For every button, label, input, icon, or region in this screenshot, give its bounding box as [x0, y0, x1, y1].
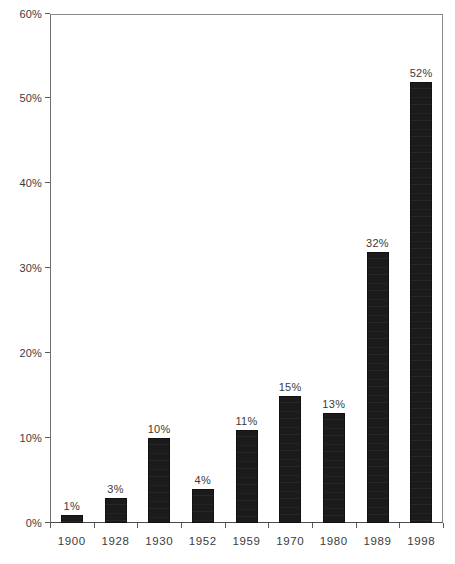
y-axis-tick-label: 20% — [19, 347, 42, 359]
bar-chart: 0% 10% 20% 30% 40% 50% 60% — [0, 0, 455, 564]
bar[interactable] — [367, 252, 389, 523]
y-axis-tick: 60% — [0, 8, 50, 20]
x-axis-label: 1998 — [397, 534, 445, 548]
bar-value-label: 32% — [356, 237, 400, 250]
x-axis-tick-mark — [356, 523, 357, 528]
bar[interactable] — [148, 438, 170, 523]
x-axis-label: 1952 — [179, 534, 227, 548]
bars-layer: 1% 3% 10% 4% 11% 15% 13% 32% 52% — [50, 14, 443, 523]
y-axis-tick: 40% — [0, 177, 50, 189]
x-axis-tick-mark — [50, 523, 51, 528]
x-axis-tick-mark — [181, 523, 182, 528]
x-axis-label: 1959 — [223, 534, 271, 548]
bar-value-label: 1% — [50, 500, 94, 513]
y-axis-tick-label: 10% — [19, 432, 42, 444]
x-axis-tick-mark — [225, 523, 226, 528]
x-axis-label: 1980 — [310, 534, 358, 548]
y-axis-tick: 0% — [0, 517, 50, 529]
y-axis: 0% 10% 20% 30% 40% 50% 60% — [0, 14, 50, 523]
bar[interactable] — [105, 498, 127, 523]
x-axis-label: 1930 — [135, 534, 183, 548]
x-axis-ticks — [50, 523, 443, 528]
bar-value-label: 52% — [399, 67, 443, 80]
x-axis-label: 1970 — [266, 534, 314, 548]
x-axis-tick-mark — [443, 523, 444, 528]
x-axis-tick-mark — [268, 523, 269, 528]
bar-value-label: 10% — [137, 423, 181, 436]
bar-value-label: 15% — [268, 381, 312, 394]
y-axis-tick-label: 0% — [26, 517, 42, 529]
x-axis: 1900 1928 1930 1952 1959 1970 1980 1989 … — [50, 534, 443, 554]
x-axis-label: 1928 — [92, 534, 140, 548]
y-axis-tick-label: 40% — [19, 177, 42, 189]
bar-value-label: 3% — [94, 483, 138, 496]
y-axis-tick-label: 60% — [19, 8, 42, 20]
bar[interactable] — [323, 413, 345, 523]
y-axis-tick: 50% — [0, 92, 50, 104]
bar-value-label: 13% — [312, 398, 356, 411]
y-axis-tick: 20% — [0, 347, 50, 359]
x-axis-tick-mark — [399, 523, 400, 528]
bar[interactable] — [61, 515, 83, 523]
bar[interactable] — [236, 430, 258, 523]
y-axis-tick-label: 30% — [19, 262, 42, 274]
bar-value-label: 4% — [181, 474, 225, 487]
bar[interactable] — [279, 396, 301, 523]
x-axis-label: 1989 — [354, 534, 402, 548]
y-axis-tick: 10% — [0, 432, 50, 444]
x-axis-tick-mark — [312, 523, 313, 528]
y-axis-tick: 30% — [0, 262, 50, 274]
y-axis-tick-label: 50% — [19, 92, 42, 104]
bar[interactable] — [410, 82, 432, 523]
x-axis-tick-mark — [94, 523, 95, 528]
x-axis-tick-mark — [137, 523, 138, 528]
bar[interactable] — [192, 489, 214, 523]
bar-value-label: 11% — [225, 415, 269, 428]
x-axis-label: 1900 — [48, 534, 96, 548]
